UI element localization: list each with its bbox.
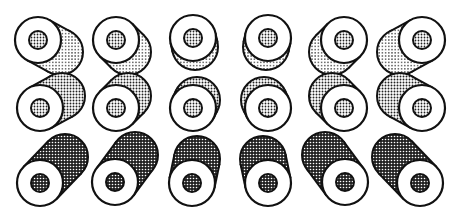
cylinder-row-bottom-2 — [92, 132, 158, 205]
cylinder-row-bottom-1 — [17, 134, 88, 206]
cylinder-grid-figure — [0, 0, 464, 220]
cylinder-row-middle-3 — [170, 77, 220, 131]
cylinder-row-top-5 — [309, 17, 367, 75]
cylinder-row-top-4 — [243, 15, 291, 70]
cylinder-hub-icon — [106, 173, 124, 191]
cylinder-row-top-3 — [170, 15, 218, 70]
cylinder-hub-icon — [184, 99, 202, 117]
cylinder-row-bottom-3 — [169, 136, 220, 206]
cylinder-cells — [15, 15, 445, 206]
cylinder-row-middle-6 — [377, 73, 445, 131]
cylinder-row-middle-5 — [309, 73, 367, 131]
cylinder-grid-canvas — [0, 0, 464, 220]
cylinder-row-bottom-5 — [302, 132, 368, 205]
cylinder-hub-icon — [411, 174, 429, 192]
cylinder-hub-icon — [183, 174, 201, 192]
cylinder-hub-icon — [31, 174, 49, 192]
cylinder-row-bottom-6 — [372, 134, 443, 206]
cylinder-row-bottom-4 — [240, 136, 291, 206]
cylinder-hub-icon — [335, 99, 353, 117]
cylinder-row-top-1 — [15, 17, 83, 75]
cylinder-hub-icon — [259, 29, 277, 47]
cylinder-row-middle-1 — [17, 73, 85, 131]
cylinder-hub-icon — [184, 29, 202, 47]
cylinder-row-top-2 — [93, 17, 151, 75]
cylinder-hub-icon — [336, 173, 354, 191]
cylinder-hub-icon — [413, 31, 431, 49]
cylinder-hub-icon — [29, 31, 47, 49]
cylinder-row-middle-4 — [241, 77, 291, 131]
cylinder-row-top-6 — [377, 17, 445, 75]
cylinder-hub-icon — [413, 99, 431, 117]
cylinder-hub-icon — [259, 174, 277, 192]
cylinder-hub-icon — [31, 99, 49, 117]
cylinder-hub-icon — [259, 99, 277, 117]
cylinder-row-middle-2 — [93, 73, 151, 131]
cylinder-hub-icon — [107, 31, 125, 49]
cylinder-hub-icon — [107, 99, 125, 117]
cylinder-hub-icon — [335, 31, 353, 49]
